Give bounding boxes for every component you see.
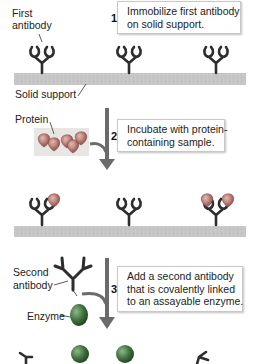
enzyme-label: Enzyme [27, 310, 65, 322]
second-antibody-label-line1: Second [13, 266, 49, 278]
second-antibody-pointer [54, 281, 68, 285]
bound-protein-icon [48, 194, 60, 207]
step-3-number: 3 [111, 283, 117, 295]
second-antibody-icon [55, 258, 91, 296]
protein-label: Protein [15, 113, 48, 125]
solid-support-2 [14, 226, 246, 237]
step-1-callout: Immobilize first antibody on solid suppo… [117, 1, 241, 34]
step-2-callout: Incubate with protein- containing sample… [117, 119, 225, 152]
solid-support-label: Solid support [15, 88, 76, 100]
first-antibody-label: First antibody [12, 7, 52, 31]
step-2-text-line2: containing sample. [127, 136, 220, 149]
first-antibody-label-line1: First [12, 7, 32, 19]
bound-protein-icon [222, 194, 234, 207]
solid-support-pointer [78, 84, 86, 96]
first-antibody-pointer [39, 34, 42, 42]
protein-blob-icon [34, 128, 89, 156]
step-3-callout: Add a second antibody that is covalently… [117, 266, 243, 312]
antibody-connector [82, 293, 106, 304]
first-antibody-label-line2: antibody [12, 19, 52, 31]
enzyme-sphere-icon [70, 304, 88, 326]
step-3-text-line3: to an assayable enzyme. [127, 295, 238, 308]
step-1-text-line2: on solid support. [127, 18, 236, 31]
first-antibody-icon [117, 47, 140, 73]
first-antibody-icon [204, 47, 227, 73]
first-antibody-icon [30, 47, 53, 73]
step-3-text-line2: that is covalently linked [127, 283, 238, 296]
protein-connector [90, 143, 106, 152]
solid-support-1 [14, 73, 246, 85]
first-antibody-icon [117, 199, 140, 225]
second-antibody-label-line2: antibody [13, 279, 53, 291]
step-2-text-line1: Incubate with protein- [127, 123, 220, 136]
step-1-number: 1 [111, 12, 117, 24]
step-3-text-line1: Add a second antibody [127, 270, 238, 283]
final-complex-row [20, 345, 208, 364]
step-2-number: 2 [111, 130, 117, 142]
bound-protein-icon [201, 194, 213, 207]
second-antibody-label: Second antibody [13, 266, 53, 292]
step-1-text-line1: Immobilize first antibody [127, 5, 236, 18]
